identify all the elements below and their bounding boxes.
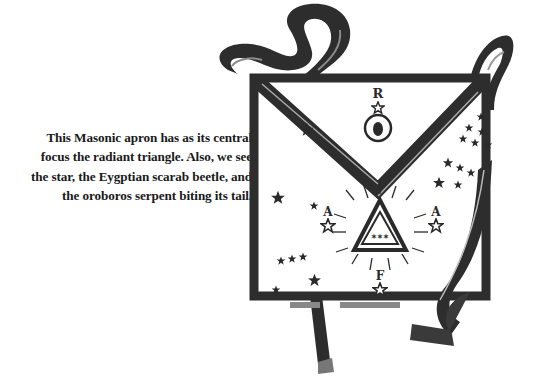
emblem-letter-right: A <box>430 205 441 219</box>
ribbon-top-left <box>219 4 350 82</box>
apron-body <box>254 78 486 296</box>
ribbon-bottom-left <box>290 296 400 374</box>
triangle-inscription: ✶✶✶ <box>371 232 389 241</box>
scarab-beetle-icon <box>373 122 383 136</box>
emblem-letter-top: R <box>373 86 384 101</box>
emblem-letter-bottom: F <box>376 269 385 283</box>
masonic-apron-illustration: R ✶✶✶ A A <box>0 0 542 386</box>
emblem-letter-left: A <box>322 205 333 219</box>
